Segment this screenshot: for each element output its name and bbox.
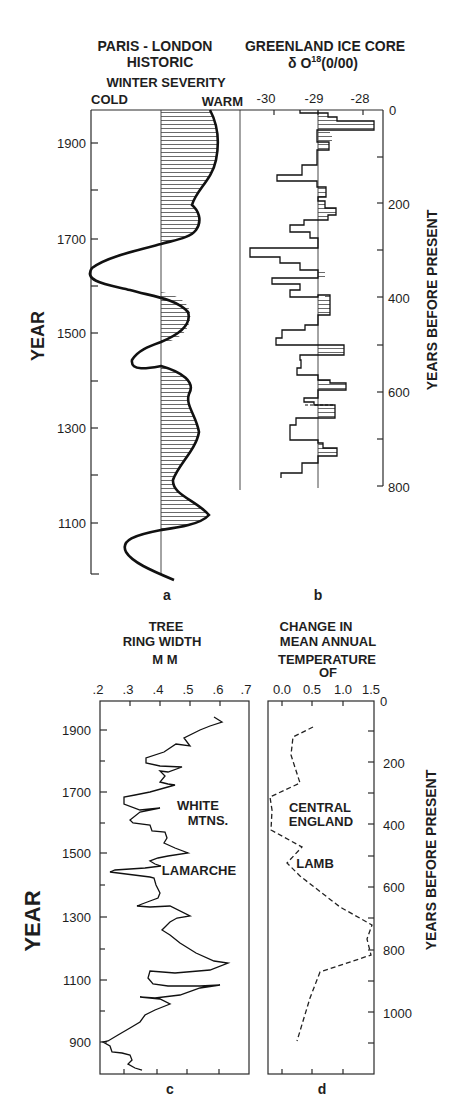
panel-c-title-2: RING WIDTH — [123, 634, 202, 649]
panel-d-title-4: OF — [319, 665, 337, 680]
year-axis-label-bottom: YEAR — [20, 890, 45, 951]
ytick-1500: 1500 — [57, 326, 86, 341]
panel-b-title-2: δ O18(0/00) — [288, 54, 358, 71]
annotation-white: WHITE — [177, 798, 219, 813]
panel-c-title-1: TREE — [149, 619, 184, 634]
panel-b-caption: b — [314, 587, 323, 603]
xtick-0.4: .4 — [153, 682, 164, 697]
figure: PARIS - LONDON HISTORIC WINTER SEVERITY … — [0, 0, 458, 1116]
ytick-c-1900: 1900 — [62, 723, 91, 738]
panel-d-title-2: MEAN ANNUAL — [280, 634, 376, 649]
ytick-1300: 1300 — [57, 421, 86, 436]
xtick-0.5: 0.5 — [303, 682, 321, 697]
ytick-c-1500: 1500 — [62, 846, 91, 861]
rtick-400: 400 — [388, 291, 410, 306]
panel-c-x-ticks: .2 .3 .4 .5 .6 .7 — [93, 682, 252, 697]
ytick-c-1300: 1300 — [62, 910, 91, 925]
panel-d-caption: d — [318, 1081, 327, 1097]
ytick-1700: 1700 — [57, 232, 86, 247]
ybp-axis-label-top: YEARS BEFORE PRESENT — [424, 209, 440, 390]
rtick-600: 600 — [388, 385, 410, 400]
panel-b-d18o-series — [250, 110, 374, 478]
warm-label: WARM — [202, 94, 243, 109]
annotation-england: ENGLAND — [289, 814, 353, 829]
ytick-c-900: 900 — [69, 1035, 91, 1050]
xtick-0.6: .6 — [213, 682, 224, 697]
panel-c-tick-marks — [100, 701, 220, 1074]
panel-a-caption: a — [163, 587, 171, 603]
rtick-d-200: 200 — [383, 756, 405, 771]
panel-a-title-1: PARIS - LONDON — [98, 38, 213, 54]
rtick-d-400: 400 — [383, 818, 405, 833]
xtick-1.5: 1.5 — [362, 682, 380, 697]
xtick-minus29: -29 — [305, 91, 324, 106]
panel-c-ring-width-series — [103, 717, 228, 1070]
xtick-0.0: 0.0 — [273, 682, 291, 697]
ytick-c-1100: 1100 — [63, 973, 91, 988]
rtick-200: 200 — [388, 197, 410, 212]
ybp-axis-label-bottom: YEARS BEFORE PRESENT — [423, 769, 439, 950]
xtick-1.0: 1.0 — [334, 682, 352, 697]
rtick-800: 800 — [388, 480, 410, 495]
panel-d-annotations: CENTRAL ENGLAND LAMB — [289, 800, 353, 871]
panel-a-title-2: HISTORIC — [127, 54, 194, 70]
rtick-d-1000: 1000 — [383, 1006, 412, 1021]
rtick-d-800: 800 — [383, 943, 405, 958]
year-axis-label-top: YEAR — [28, 311, 48, 361]
xtick-0.5: .5 — [183, 682, 194, 697]
panel-d-x-ticks: 0.0 0.5 1.0 1.5 — [273, 682, 380, 697]
ytick-c-1700: 1700 — [62, 785, 91, 800]
xtick-minus28: -28 — [351, 91, 370, 106]
xtick-minus30: -30 — [257, 91, 276, 106]
panel-d: CHANGE IN MEAN ANNUAL TEMPERATURE OF 0.0… — [268, 619, 439, 1097]
panel-c-title-3: M M — [152, 652, 177, 667]
xtick-0.3: .3 — [123, 682, 134, 697]
cold-label: COLD — [91, 92, 128, 107]
panel-b-x-ticks: -30 -29 -28 — [240, 91, 383, 115]
annotation-lamarche: LAMARCHE — [162, 863, 237, 878]
panel-b-right-ticks: 0 200 400 600 800 — [377, 103, 410, 495]
panel-d-right-ticks: 0 200 400 600 800 1000 — [380, 694, 412, 1021]
panel-a-year-ticks: 1900 1700 1500 1300 1100 — [57, 136, 98, 531]
panel-d-tick-marks — [282, 701, 374, 1074]
annotation-central: CENTRAL — [289, 800, 351, 815]
panel-d-temperature-series — [270, 727, 372, 1041]
xtick-0.2: .2 — [93, 682, 104, 697]
panel-c-annotations: WHITE MTNS. LAMARCHE — [162, 798, 237, 878]
rtick-d-0: 0 — [380, 694, 387, 709]
ytick-1100: 1100 — [58, 516, 86, 531]
ytick-1900: 1900 — [57, 136, 86, 151]
rtick-0: 0 — [389, 103, 396, 118]
panel-d-title-1: CHANGE IN — [280, 619, 353, 634]
panel-b: GREENLAND ICE CORE δ O18(0/00) -30 -29 -… — [240, 38, 440, 603]
panel-c-caption: c — [166, 1081, 174, 1097]
panel-c-year-ticks: 1900 1700 1500 1300 1100 900 — [62, 723, 91, 1050]
xtick-0.7: .7 — [241, 682, 252, 697]
rtick-d-600: 600 — [383, 880, 405, 895]
panel-c: TREE RING WIDTH M M .2 .3 .4 .5 .6 .7 — [20, 619, 251, 1097]
panel-a: PARIS - LONDON HISTORIC WINTER SEVERITY … — [28, 38, 243, 603]
panel-a-title-3: WINTER SEVERITY — [106, 75, 226, 90]
annotation-lamb: LAMB — [296, 856, 334, 871]
panel-b-title-1: GREENLAND ICE CORE — [245, 38, 405, 54]
annotation-mtns: MTNS. — [188, 813, 228, 828]
